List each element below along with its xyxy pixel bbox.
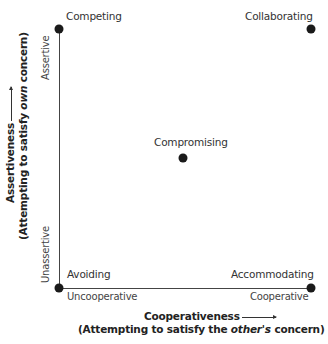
assertive-label: Assertive [40,36,51,81]
competing-dot [55,25,64,34]
competing-label: Competing [66,10,122,22]
assertiveness-title-text: Assertiveness [4,123,16,203]
arrow-right-icon [242,317,276,318]
cooperativeness-axis-line [59,288,311,289]
avoiding-dot [55,284,64,293]
collaborating-dot [307,25,316,34]
assertiveness-axis-title: Assertiveness (Attempting to satisfy own… [4,50,29,240]
compromising-dot [179,154,188,163]
avoiding-label: Avoiding [67,268,110,280]
uncooperative-label: Uncooperative [67,291,137,302]
cooperativeness-title-text: Cooperativeness [144,310,240,322]
accommodating-label: Accommodating [231,268,314,280]
cooperativeness-axis-title: Cooperativeness (Attempting to satisfy t… [78,310,328,335]
cooperative-label: Cooperative [250,291,309,302]
compromising-label: Compromising [154,136,228,148]
arrow-up-icon [11,87,12,121]
assertiveness-axis-line [59,29,60,288]
collaborating-label: Collaborating [245,10,313,22]
unassertive-label: Unassertive [40,226,51,283]
